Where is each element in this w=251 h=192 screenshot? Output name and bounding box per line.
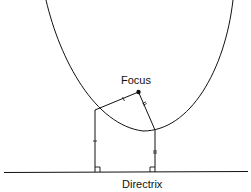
right-focus-segment [139,92,156,130]
parabola-diagram [0,0,251,192]
left-focus-segment [95,92,139,110]
tick-marks [93,97,157,153]
directrix-label: Directrix [122,178,162,190]
right-right-angle-mark [150,167,155,172]
parabola-curve [46,0,233,131]
directrix-line [4,172,248,173]
left-right-angle-mark [95,167,100,172]
focus-label: Focus [121,74,151,86]
